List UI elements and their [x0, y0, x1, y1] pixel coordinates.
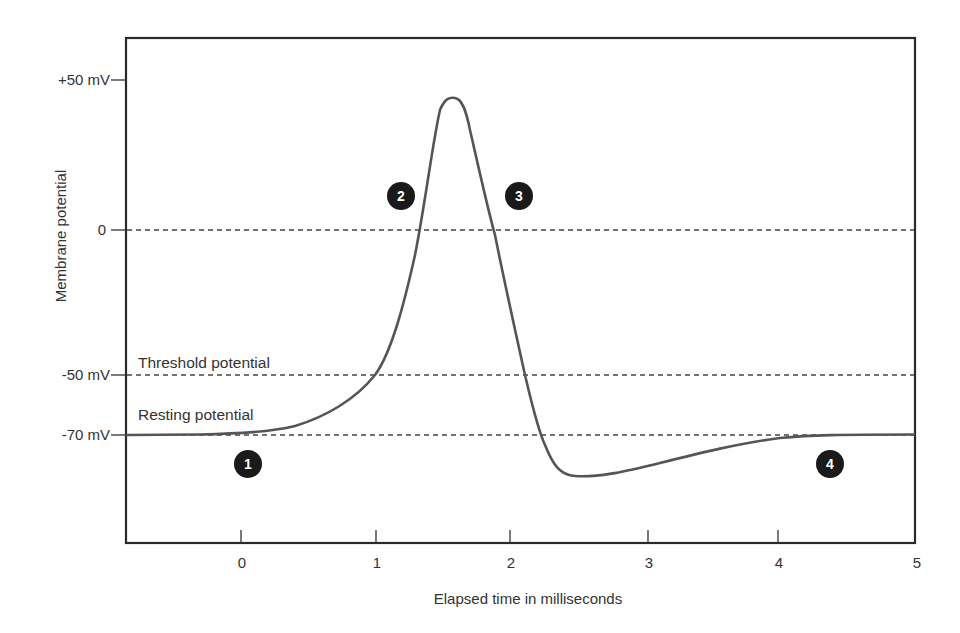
marker-2: 2	[387, 182, 415, 210]
x-tick-label-0: 0	[238, 554, 246, 571]
x-tick-label-5: 5	[913, 554, 921, 571]
marker-1-label: 1	[244, 456, 252, 472]
x-tick-label-1: 1	[373, 554, 381, 571]
action-potential-chart: +50 mV 0 -50 mV -70 mV 0 1 2 3 4 5 Elaps…	[0, 0, 960, 633]
marker-4: 4	[816, 450, 844, 478]
x-axis-title: Elapsed time in milliseconds	[434, 590, 622, 607]
marker-1: 1	[234, 450, 262, 478]
resting-label: Resting potential	[138, 406, 253, 423]
marker-4-label: 4	[826, 456, 834, 472]
y-tick-label-minus70: -70 mV	[62, 426, 110, 443]
y-axis-title: Membrane potential	[52, 170, 69, 303]
y-tick-label-plus50: +50 mV	[58, 71, 110, 88]
y-tick-label-minus50: -50 mV	[62, 366, 110, 383]
x-tick-label-3: 3	[645, 554, 653, 571]
y-tick-label-zero: 0	[98, 221, 106, 238]
x-tick-label-2: 2	[507, 554, 515, 571]
marker-3: 3	[505, 182, 533, 210]
threshold-label: Threshold potential	[138, 354, 270, 371]
marker-3-label: 3	[515, 188, 523, 204]
marker-2-label: 2	[397, 188, 405, 204]
x-tick-label-4: 4	[775, 554, 783, 571]
